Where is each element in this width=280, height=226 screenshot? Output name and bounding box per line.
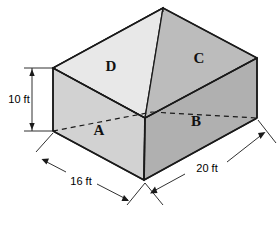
ext-line-width-end [127, 183, 145, 205]
dim-label-width: 16 ft [70, 175, 91, 187]
ext-line-width-start [36, 133, 53, 152]
box-diagram: D C A B 10 ft 16 ft 20 ft [0, 0, 280, 226]
face-label-C: C [194, 50, 205, 66]
ext-line-length-end [258, 120, 276, 143]
dim-line-length-a [152, 174, 185, 192]
dim-label-height: 10 ft [8, 93, 29, 105]
face-label-A: A [94, 122, 105, 138]
arrowhead-width-end [122, 195, 130, 201]
arrowhead-height-top [29, 69, 34, 76]
face-label-D: D [106, 58, 117, 74]
dim-line-length-b [227, 133, 264, 162]
arrowhead-width-start [42, 159, 50, 165]
arrowhead-height-bottom [29, 123, 34, 130]
dim-label-length: 20 ft [196, 162, 217, 174]
dimension-height: 10 ft [8, 68, 56, 131]
ext-line-length-start [145, 183, 163, 205]
edge-front-vertical [144, 118, 145, 180]
face-label-B: B [191, 113, 201, 129]
arrowhead-length-end [258, 132, 266, 139]
